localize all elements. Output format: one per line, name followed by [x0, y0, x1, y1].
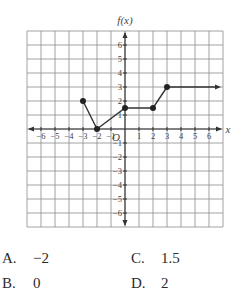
y-tick-label: −4: [113, 180, 123, 190]
answer-choice-b[interactable]: B. 0: [2, 275, 102, 293]
y-tick-label: −2: [113, 152, 122, 162]
y-tick-label: −3: [113, 166, 122, 176]
choice-value: 2: [161, 275, 169, 291]
closed-point: [164, 84, 170, 90]
y-axis-label: f(x): [117, 14, 133, 27]
x-tick-label: −6: [36, 131, 45, 141]
x-tick-label: −4: [64, 131, 74, 141]
x-tick-label: 4: [179, 131, 184, 141]
x-tick-label: 1: [137, 131, 141, 141]
closed-point: [94, 126, 100, 132]
x-axis-arrow-right-icon: [216, 127, 222, 132]
x-tick-label: 2: [151, 131, 155, 141]
choice-letter: A.: [2, 250, 17, 266]
x-axis-arrow-left-icon: [28, 127, 34, 132]
y-axis-arrow-up-icon: [123, 32, 128, 38]
x-tick-label: 5: [193, 131, 197, 141]
y-tick-label: 3: [118, 82, 122, 92]
choice-letter: D.: [131, 275, 146, 291]
axes: [28, 32, 222, 226]
answer-choice-a[interactable]: A. −2: [2, 250, 102, 268]
ray-arrow-icon: [215, 85, 221, 90]
x-tick-label: 3: [165, 131, 169, 141]
x-tick-label: −3: [78, 131, 87, 141]
answer-choice-d[interactable]: D. 2: [131, 275, 231, 293]
y-tick-label: 2: [118, 96, 122, 106]
function-graph: −6−5−4−3−2−1123456−6−5−4−3−2−1123456 f(x…: [0, 0, 246, 240]
choice-letter: B.: [2, 275, 16, 291]
y-tick-label: −5: [113, 194, 122, 204]
x-tick-label: 6: [207, 131, 211, 141]
closed-point: [150, 105, 156, 111]
answer-choice-c[interactable]: C. 1.5: [131, 250, 231, 268]
x-tick-label: −2: [92, 131, 101, 141]
y-tick-label: −6: [113, 208, 122, 218]
choice-value: 0: [33, 275, 41, 291]
choice-letter: C.: [131, 250, 145, 266]
closed-point: [80, 98, 86, 104]
origin-label: O: [112, 131, 120, 143]
y-tick-label: 6: [118, 40, 122, 50]
y-tick-label: 5: [118, 54, 122, 64]
choice-value: −2: [33, 250, 49, 266]
x-tick-label: −5: [50, 131, 59, 141]
function-plot: [80, 84, 221, 132]
closed-point: [122, 105, 128, 111]
x-axis-label: x: [225, 123, 231, 135]
choice-value: 1.5: [161, 250, 180, 266]
y-axis-arrow-down-icon: [123, 220, 128, 226]
